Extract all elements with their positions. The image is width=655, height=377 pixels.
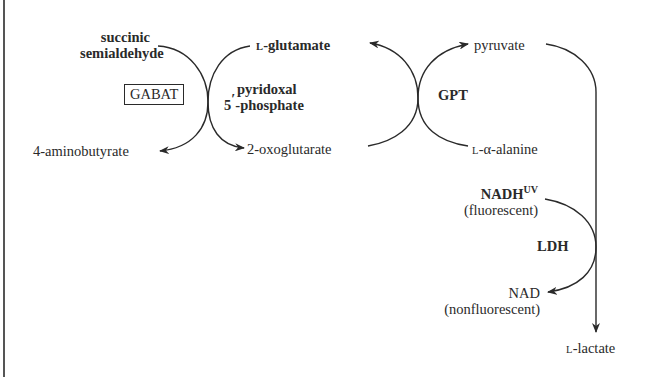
aminobutyrate-label: 4-aminobutyrate bbox=[33, 143, 129, 159]
oxoglutarate-to-glutamate-arrow bbox=[368, 43, 418, 146]
gpt-enzyme-label: GPT bbox=[438, 87, 468, 103]
uv-superscript: UV bbox=[524, 184, 538, 195]
pyruvate-label: pyruvate bbox=[474, 37, 525, 53]
phosphate-line: 5′-phosphate bbox=[224, 97, 304, 113]
nad-text: NAD bbox=[420, 285, 540, 301]
alanine-label: L-α-alanine bbox=[472, 141, 538, 159]
gabat-enzyme-box: GABAT bbox=[124, 84, 184, 105]
lactate-label: L-lactate bbox=[566, 340, 615, 358]
lactate-text: -lactate bbox=[573, 340, 616, 356]
fluorescent-note: (fluorescent) bbox=[458, 202, 538, 218]
semialdehyde-text: semialdehyde bbox=[80, 45, 150, 61]
alanine-text: -α-alanine bbox=[479, 141, 538, 157]
glutamate-text: -glutamate bbox=[263, 37, 330, 53]
pyruvate-to-lactate-arrow bbox=[546, 44, 596, 332]
l-prefix: L bbox=[566, 344, 573, 355]
succinic-text: succinic bbox=[80, 29, 150, 45]
nad-label: NAD (nonfluorescent) bbox=[420, 285, 540, 317]
oxoglutarate-label: 2-oxoglutarate bbox=[247, 141, 332, 157]
prime-mark: ′ bbox=[231, 91, 235, 107]
nadh-text: NADH bbox=[481, 186, 524, 202]
cofactor-label: pyridoxal 5′-phosphate bbox=[224, 81, 304, 113]
nonfluorescent-note: (nonfluorescent) bbox=[420, 301, 540, 317]
phosphate-text: -phosphate bbox=[235, 97, 304, 113]
ldh-enzyme-label: LDH bbox=[537, 238, 568, 254]
nadh-name: NADHUV bbox=[458, 186, 538, 202]
l-prefix: L bbox=[472, 145, 479, 156]
succinic-semialdehyde-label: succinic semialdehyde bbox=[80, 29, 150, 61]
pyridoxal-text: pyridoxal bbox=[224, 81, 304, 97]
nadh-label: NADHUV (fluorescent) bbox=[458, 186, 538, 218]
glutamate-label: L-glutamate bbox=[256, 37, 330, 55]
